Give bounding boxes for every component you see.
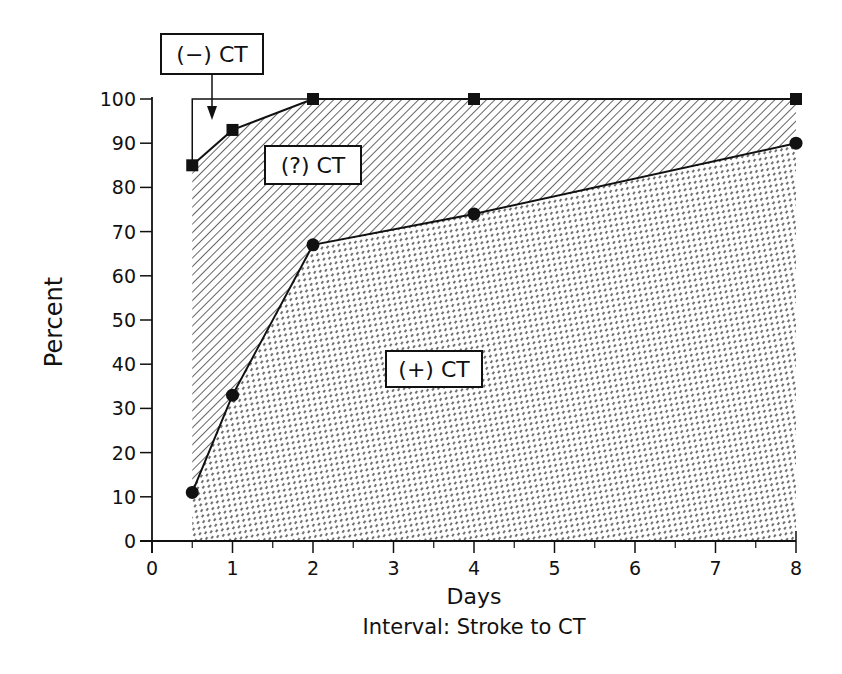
square-marker [468,93,480,105]
annotation-negative-ct: (−) CT [176,42,248,67]
x-tick-label: 5 [548,557,560,579]
x-tick-label: 8 [790,557,802,579]
x-tick-label: 0 [146,557,158,579]
y-tick-label: 30 [112,397,136,419]
y-tick-label: 70 [112,221,136,243]
x-tick-label: 3 [387,557,399,579]
x-axis-sublabel: Interval: Stroke to CT [362,615,585,639]
x-tick-label: 6 [629,557,641,579]
y-tick-label: 10 [112,486,136,508]
area-chart: 0102030405060708090100012345678DaysInter… [0,0,842,674]
arrow-head-icon [207,106,217,120]
square-marker [186,159,198,171]
y-tick-label: 0 [124,530,136,552]
circle-marker [186,486,199,499]
y-tick-label: 20 [112,442,136,464]
annotation-positive-ct: (+) CT [398,357,470,382]
circle-marker [226,389,239,402]
square-marker [227,124,239,136]
circle-marker [307,238,320,251]
x-tick-label: 7 [709,557,721,579]
circle-marker [468,207,481,220]
y-tick-label: 40 [112,353,136,375]
y-tick-label: 60 [112,265,136,287]
y-axis-label: Percent [40,277,68,367]
y-tick-label: 100 [100,88,136,110]
square-marker [307,93,319,105]
x-tick-label: 4 [468,557,480,579]
y-tick-label: 80 [112,176,136,198]
y-tick-label: 50 [112,309,136,331]
x-tick-label: 2 [307,557,319,579]
x-axis-label: Days [447,584,502,609]
circle-marker [790,137,803,150]
y-tick-label: 90 [112,132,136,154]
annotation-uncertain-ct: (?) CT [281,153,346,178]
x-tick-label: 1 [226,557,238,579]
square-marker [790,93,802,105]
